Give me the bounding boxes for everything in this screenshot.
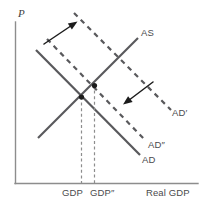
leftward-shift-arrow-head xyxy=(123,96,133,104)
curve-ad-double-prime xyxy=(47,39,146,141)
rightward-shift-arrow-head xyxy=(68,22,78,30)
equilibrium-point-gdp-double-prime xyxy=(92,83,97,88)
curve-label-ad: AD xyxy=(142,155,155,165)
x-tick-label-gdp: GDP xyxy=(62,188,83,198)
diagram-canvas xyxy=(0,0,205,207)
equilibrium-point-gdp xyxy=(79,94,84,99)
x-tick-label-gdp-double-prime: GDP″ xyxy=(90,188,114,198)
curve-label-as: AS xyxy=(141,28,154,38)
leftward-shift-arrow-shaft xyxy=(129,82,154,101)
curve-as xyxy=(38,38,138,138)
curve-ad-prime xyxy=(74,13,171,110)
curve-label-ad-prime: AD′ xyxy=(172,108,187,118)
ad-as-diagram: P Real GDP AS AD′ AD″ AD GDP GDP″ xyxy=(0,0,205,207)
rightward-shift-arrow-shaft xyxy=(44,26,72,45)
curve-label-ad-double-prime: AD″ xyxy=(148,140,165,150)
x-axis-label: Real GDP xyxy=(146,188,190,198)
y-axis-label: P xyxy=(18,8,25,19)
